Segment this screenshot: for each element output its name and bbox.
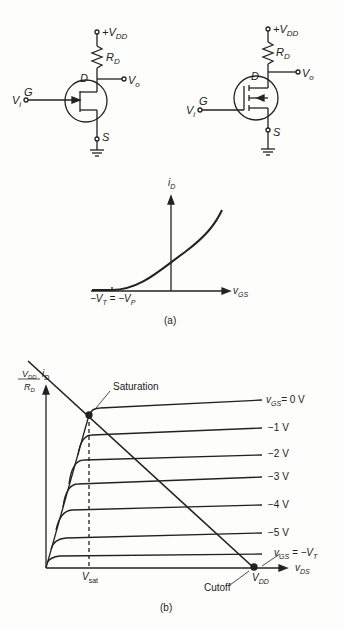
drain-resistor-icon [92,46,102,68]
curve-4v [56,505,262,530]
curve-2v [69,455,262,484]
svg-text:+VDD: +VDD [102,26,128,41]
body-arrow-icon [257,95,264,101]
y-axis-arrow-icon [168,196,174,204]
load-line [28,361,254,568]
svg-text:Cutoff: Cutoff [204,582,231,593]
svg-text:G: G [24,86,33,98]
x-axis-arrow-icon [279,565,287,571]
svg-text:Vi: Vi [12,94,21,109]
y-axis-arrow-icon [43,386,49,394]
svg-text:RD: RD [106,51,120,66]
svg-text:−3 V: −3 V [268,471,289,482]
svg-text:−VT = −VP: −VT = −VP [90,293,136,306]
svg-text:S: S [102,131,110,143]
svg-text:vGS= 0 V: vGS= 0 V [266,394,305,407]
jfet-circuit [24,30,126,156]
svg-text:vGS: vGS [233,285,248,298]
svg-text:(b): (b) [160,602,172,613]
svg-text:RD: RD [24,382,36,393]
svg-text:Vo: Vo [302,67,314,82]
mosfet-labels: +VDD RD D Vo G Vi S [186,23,314,138]
svg-text:Vsat: Vsat [82,571,98,584]
drain-resistor-icon [263,42,273,64]
output-characteristics-chart [18,361,287,585]
mosfet-circuit [198,27,300,155]
svg-text:VDD: VDD [252,572,269,585]
svg-text:S: S [273,126,281,138]
transfer-curve [92,210,222,290]
curve-3v [63,477,262,507]
curve-vt [47,554,262,563]
svg-text:vGS = −VT: vGS = −VT [274,547,318,560]
cutoff-point [251,564,257,570]
svg-text:G: G [199,95,208,107]
svg-text:Vi: Vi [186,104,195,119]
svg-text:(a): (a) [164,315,176,326]
x-axis-arrow-icon [222,288,230,294]
svg-text:iD: iD [168,177,175,190]
svg-text:iD: iD [42,368,49,381]
curve-0v [89,400,262,415]
figure-canvas: +VDD RD D Vo G Vi S +VDD RD D Vo G Vi S … [0,0,344,630]
svg-text:VDD: VDD [22,369,37,380]
svg-text:+VDD: +VDD [273,23,299,38]
gate-arrow-icon [72,97,80,103]
svg-text:Vo: Vo [128,74,140,89]
svg-text:−2 V: −2 V [268,448,289,459]
transfer-characteristic-chart [91,196,230,294]
vo-terminal [122,77,126,81]
jfet-labels: +VDD RD D Vo G Vi S [12,26,140,143]
svg-text:D: D [251,70,259,82]
svg-text:vDS: vDS [295,562,310,575]
svg-text:D: D [80,72,88,84]
svg-text:−4 V: −4 V [268,499,289,510]
svg-text:Saturation: Saturation [113,381,159,392]
svg-text:−5 V: −5 V [268,527,289,538]
saturation-point [86,412,92,418]
vdd-terminal [95,30,99,34]
svg-text:RD: RD [276,46,290,61]
jfet-symbol-icon [65,80,107,122]
svg-text:−1 V: −1 V [268,422,289,433]
